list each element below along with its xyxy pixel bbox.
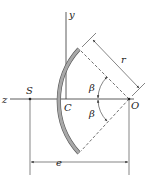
label-centroid: C xyxy=(64,102,72,113)
label-z-axis: z xyxy=(1,94,8,105)
shear-center-point xyxy=(29,98,32,101)
center-point-o xyxy=(128,98,131,101)
angle-arc-lower xyxy=(98,100,107,121)
label-shear-center: S xyxy=(26,85,33,96)
label-y-axis: y xyxy=(68,9,75,20)
radial-line-lower xyxy=(81,99,129,151)
label-angle-lower: β xyxy=(88,108,95,119)
r-dimension-line xyxy=(93,40,139,88)
angle-arc-upper xyxy=(98,77,107,98)
curved-section-fill xyxy=(59,49,79,153)
r-extension-bottom xyxy=(132,83,145,96)
diagram-canvas: y z S C O r β β e xyxy=(0,0,152,186)
label-radius: r xyxy=(121,54,127,65)
label-eccentricity: e xyxy=(56,157,62,168)
label-center-o: O xyxy=(131,100,139,111)
r-extension-top xyxy=(82,33,96,47)
label-angle-upper: β xyxy=(88,82,95,93)
